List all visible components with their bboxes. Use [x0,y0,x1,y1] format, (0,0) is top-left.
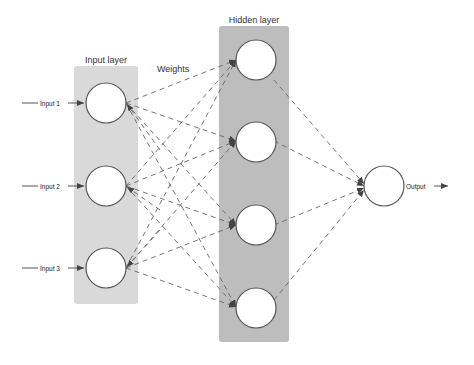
hidden-node-2 [236,122,276,162]
input-3-label: Input 3 [40,265,60,273]
hidden-node-1 [236,40,276,80]
input-node-2 [86,166,126,206]
input-layer-label: Input layer [85,55,127,65]
hidden-node-4 [236,288,276,328]
weights-label: Weights [157,64,190,74]
output-label: Output [406,183,426,191]
input-1-label: Input 1 [40,100,60,108]
output-node [364,166,404,206]
input-node-3 [86,248,126,288]
hidden-layer-label: Hidden layer [229,15,280,25]
input-2-label: Input 2 [40,183,60,191]
neural-network-diagram: Input layer Hidden layer Weights [0,0,474,365]
hidden-node-3 [236,205,276,245]
input-node-1 [86,83,126,123]
